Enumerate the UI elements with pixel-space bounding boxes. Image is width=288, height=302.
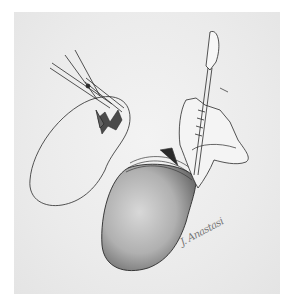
illustration-canvas: J. Anastasi (0, 0, 288, 302)
thumb-line (220, 88, 228, 92)
drawing (0, 0, 288, 302)
right-organ (102, 164, 196, 270)
scissors-icon (50, 50, 124, 128)
